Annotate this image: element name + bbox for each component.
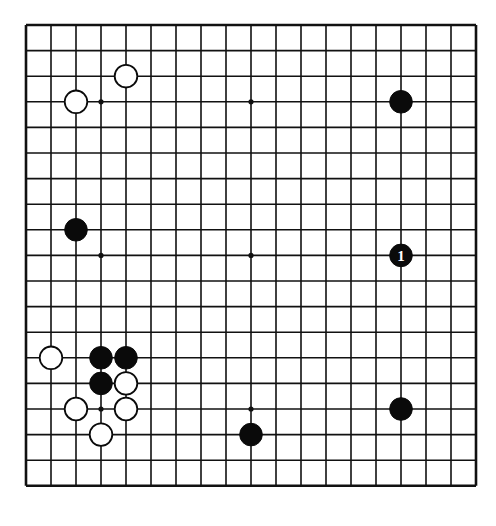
star-point: [98, 253, 103, 258]
black-stone: [65, 219, 88, 242]
black-stone: [390, 398, 413, 421]
white-stone: [115, 398, 138, 421]
star-point: [248, 253, 253, 258]
white-stone: [115, 65, 138, 88]
go-board: 1: [0, 0, 496, 526]
black-stone: [90, 347, 113, 370]
white-stone: [65, 398, 88, 421]
black-stone: [390, 91, 413, 114]
black-stone: [90, 372, 113, 395]
star-point: [98, 406, 103, 411]
star-point: [248, 99, 253, 104]
white-stone: [90, 423, 113, 446]
white-stone: [115, 372, 138, 395]
move-number-label: 1: [397, 248, 405, 264]
star-point: [98, 99, 103, 104]
black-stone: 1: [390, 244, 413, 267]
black-stone: [115, 347, 138, 370]
black-stone: [240, 423, 263, 446]
white-stone: [65, 91, 88, 114]
star-point: [248, 406, 253, 411]
white-stone: [40, 347, 63, 370]
